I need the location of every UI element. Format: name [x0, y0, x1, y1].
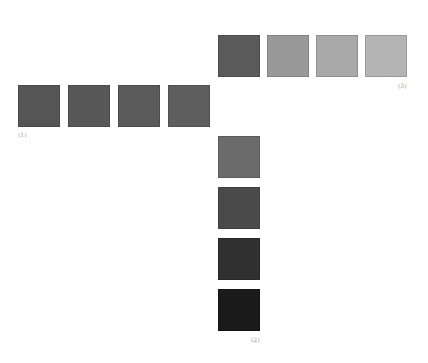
swatch-1-2 [68, 85, 110, 127]
group-3-label: (3) [398, 83, 407, 89]
swatch-2-1 [218, 136, 260, 178]
swatch-2-2 [218, 187, 260, 229]
group-1-label: (1) [18, 132, 27, 138]
swatch-3-4 [365, 35, 407, 77]
group-2-label: (2) [251, 337, 260, 343]
swatch-3-2 [267, 35, 309, 77]
swatch-1-4 [168, 85, 210, 127]
swatch-2-4 [218, 289, 260, 331]
swatch-1-1 [18, 85, 60, 127]
swatch-1-3 [118, 85, 160, 127]
swatch-3-1 [218, 35, 260, 77]
swatch-2-3 [218, 238, 260, 280]
swatch-3-3 [316, 35, 358, 77]
